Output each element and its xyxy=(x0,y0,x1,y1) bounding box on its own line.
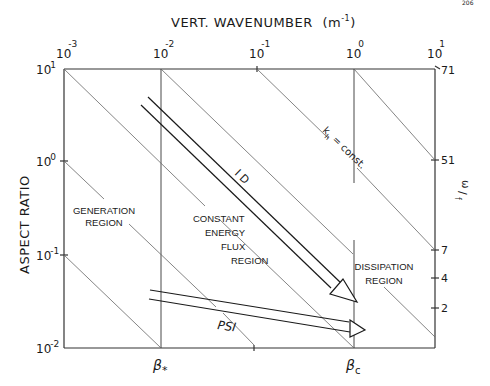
svg-text:ENERGY: ENERGY xyxy=(205,227,246,238)
svg-text:100: 100 xyxy=(36,152,56,169)
svg-text:REGION: REGION xyxy=(85,217,123,228)
left-axis-ticks: 101 100 10-1 10-2 xyxy=(36,60,59,356)
svg-text:GENERATION: GENERATION xyxy=(73,205,135,216)
psi-arrow xyxy=(149,290,365,337)
id-arrow-label: I D xyxy=(232,167,252,187)
svg-text:71: 71 xyxy=(441,64,455,77)
svg-text:2: 2 xyxy=(441,302,448,315)
svg-text:FLUX: FLUX xyxy=(221,241,246,252)
right-axis-ticks: 71 51 7 4 2 xyxy=(441,64,455,315)
constant-flux-region-label: CONSTANT ENERGY FLUX REGION xyxy=(193,213,269,266)
svg-text:VERT. WAVENUMBER (m-1): VERT. WAVENUMBER (m-1) xyxy=(171,14,356,30)
wavenumber-aspect-ratio-diagram: 206 VERT. WAVENUMBER (m-1) 10-3 10-2 10-… xyxy=(0,0,490,386)
top-axis-title-text: VERT. WAVENUMBER xyxy=(171,15,313,30)
right-axis-title: ω / f xyxy=(453,180,471,200)
svg-text:REGION: REGION xyxy=(231,255,269,266)
svg-text:100: 100 xyxy=(346,39,364,61)
svg-text:DISSIPATION: DISSIPATION xyxy=(355,261,414,272)
svg-text:7: 7 xyxy=(441,244,448,257)
svg-text:101: 101 xyxy=(427,39,445,61)
svg-text:REGION: REGION xyxy=(365,275,403,286)
top-axis-title: VERT. WAVENUMBER (m-1) xyxy=(171,14,356,30)
svg-text:f: f xyxy=(453,197,462,200)
svg-text:/: / xyxy=(456,191,469,195)
page-number: 206 xyxy=(462,0,474,6)
svg-text:10-1: 10-1 xyxy=(249,39,270,61)
svg-text:10-3: 10-3 xyxy=(56,39,77,61)
svg-text:51: 51 xyxy=(441,154,455,167)
top-axis-unit-close: ) xyxy=(350,15,356,30)
svg-text:ω: ω xyxy=(460,180,471,188)
psi-arrow-label: PSI xyxy=(217,318,238,334)
svg-text:101: 101 xyxy=(36,60,56,77)
svg-text:10-1: 10-1 xyxy=(36,246,59,263)
top-axis-unit-exp: -1 xyxy=(341,14,350,23)
top-axis-unit: (m xyxy=(322,15,341,30)
dissipation-region-label: DISSIPATION REGION xyxy=(355,261,414,286)
svg-text:CONSTANT: CONSTANT xyxy=(193,213,245,224)
left-axis-title: ASPECT RATIO xyxy=(17,175,32,274)
svg-text:10-2: 10-2 xyxy=(153,39,174,61)
top-axis-ticks: 10-3 10-2 10-1 100 101 xyxy=(56,39,445,61)
beta-star-label: β* xyxy=(152,357,168,377)
beta-c-label: βc xyxy=(345,357,360,376)
kh-const-label: kh = const. xyxy=(319,125,368,173)
generation-region-label: GENERATION REGION xyxy=(73,205,135,228)
svg-text:10-2: 10-2 xyxy=(36,339,59,356)
svg-text:4: 4 xyxy=(441,272,448,285)
